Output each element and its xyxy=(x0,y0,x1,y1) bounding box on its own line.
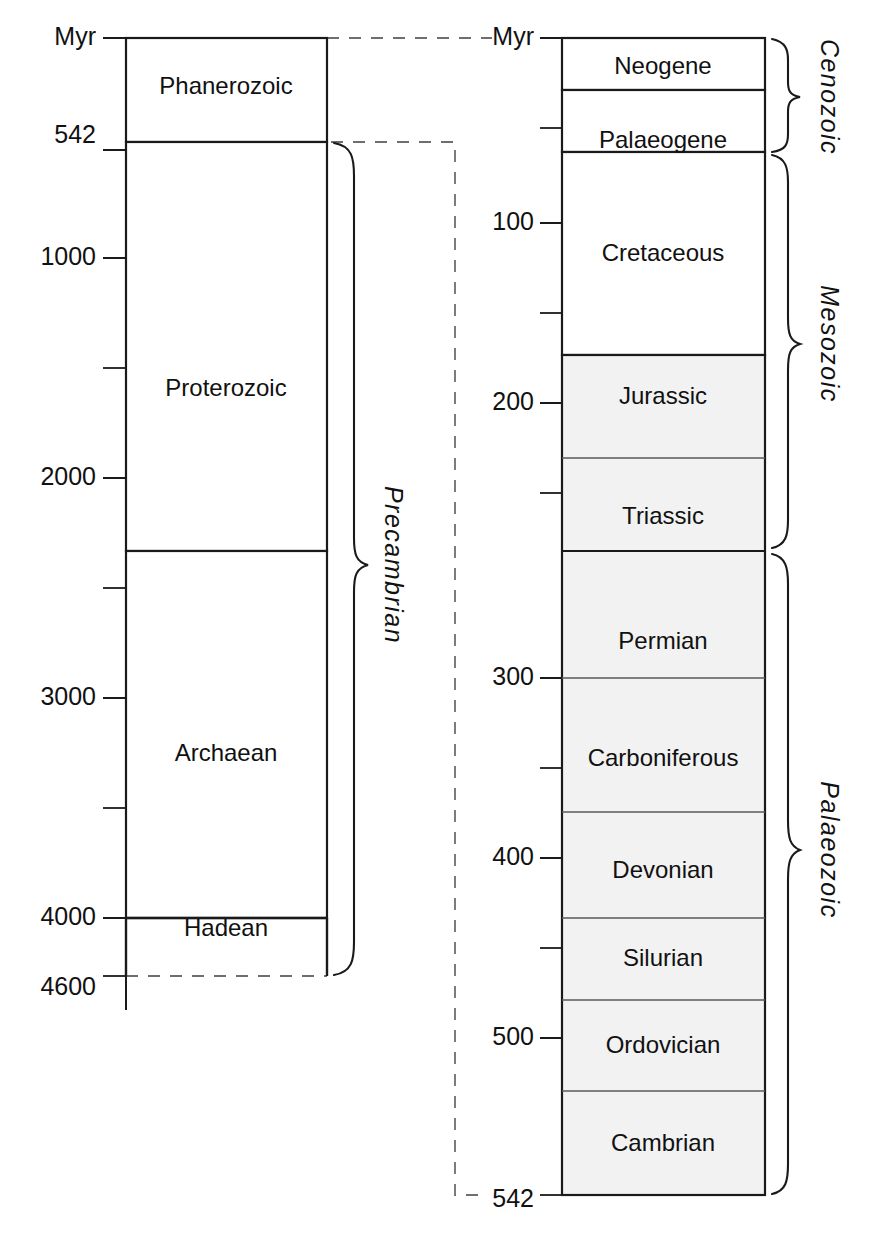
cenozoic-label: Cenozoic xyxy=(816,39,844,155)
left-axis-ticks xyxy=(103,38,126,1010)
period-label-palaeogene: Palaeogene xyxy=(599,126,727,153)
left-column-eons: Myr 542 1000 2000 3000 4000 4600 Phanero… xyxy=(40,22,327,1010)
right-tick-label-200: 200 xyxy=(492,387,534,415)
precambrian-bracket-group: Precambrian xyxy=(334,143,408,975)
left-tick-label-4000: 4000 xyxy=(40,902,96,930)
right-tick-label-myr: Myr xyxy=(492,22,534,50)
mesozoic-brace xyxy=(772,155,800,548)
right-tick-label-542: 542 xyxy=(492,1184,534,1212)
period-label-neogene: Neogene xyxy=(614,52,711,79)
right-tick-label-100: 100 xyxy=(492,207,534,235)
precambrian-label: Precambrian xyxy=(380,486,408,644)
left-tick-label-1000: 1000 xyxy=(40,242,96,270)
right-tick-label-300: 300 xyxy=(492,662,534,690)
left-tick-label-myr: Myr xyxy=(54,22,96,50)
eon-label-phanerozoic: Phanerozoic xyxy=(159,72,292,99)
geological-time-scale-diagram: Myr 542 1000 2000 3000 4000 4600 Phanero… xyxy=(0,0,889,1247)
period-label-jurassic: Jurassic xyxy=(619,382,707,409)
left-tick-label-4600: 4600 xyxy=(40,972,96,1000)
mesozoic-label: Mesozoic xyxy=(816,285,844,403)
cenozoic-brace xyxy=(772,39,800,152)
period-label-cretaceous: Cretaceous xyxy=(602,239,725,266)
palaeozoic-label: Palaeozoic xyxy=(816,781,844,918)
right-axis-ticks xyxy=(540,38,562,1195)
right-column-periods: Myr 100 200 300 400 500 542 Neogene Pala… xyxy=(492,22,766,1212)
period-label-devonian: Devonian xyxy=(612,856,713,883)
right-tick-label-500: 500 xyxy=(492,1022,534,1050)
period-shaded-block xyxy=(562,355,765,1195)
period-label-triassic: Triassic xyxy=(622,502,704,529)
period-label-carboniferous: Carboniferous xyxy=(588,744,739,771)
palaeozoic-brace xyxy=(772,554,800,1194)
right-tick-label-400: 400 xyxy=(492,842,534,870)
eon-box-archaean xyxy=(126,551,327,918)
left-tick-label-542: 542 xyxy=(54,120,96,148)
eon-label-hadean: Hadean xyxy=(184,914,268,941)
eon-label-proterozoic: Proterozoic xyxy=(165,374,286,401)
eon-box-proterozoic xyxy=(126,142,327,551)
precambrian-brace xyxy=(334,143,368,975)
period-label-permian: Permian xyxy=(618,627,707,654)
left-tick-label-3000: 3000 xyxy=(40,682,96,710)
era-brackets-group: Cenozoic Mesozoic Palaeozoic xyxy=(772,39,844,1194)
eon-label-archaean: Archaean xyxy=(175,739,278,766)
period-label-ordovician: Ordovician xyxy=(606,1031,721,1058)
period-label-silurian: Silurian xyxy=(623,944,703,971)
left-tick-label-2000: 2000 xyxy=(40,462,96,490)
period-label-cambrian: Cambrian xyxy=(611,1129,715,1156)
